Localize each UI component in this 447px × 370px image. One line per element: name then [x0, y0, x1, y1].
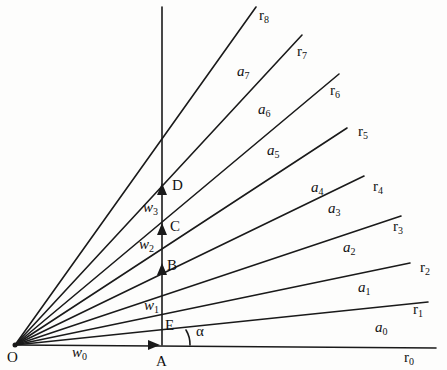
region-label-a0: a0 [375, 319, 388, 337]
region-label-a5: a5 [267, 142, 280, 160]
ray-label-r5: r5 [358, 123, 368, 141]
region-label-a2: a2 [343, 239, 356, 257]
point-label-E: E [165, 317, 174, 333]
ray-label-r7: r7 [297, 43, 307, 61]
diagram-canvas: r0r1r2r3r4r5r6r7r8a0a1a2a3a4a5a6a7ABCDEO… [0, 0, 447, 370]
arrow-B-icon [157, 263, 167, 275]
ray-label-r3: r3 [393, 218, 403, 236]
labels-group: r0r1r2r3r4r5r6r7r8a0a1a2a3a4a5a6a7ABCDEO… [7, 7, 430, 369]
angle-label-alpha: α [196, 323, 204, 339]
origin-point [13, 343, 18, 348]
angle-arc-alpha [186, 330, 190, 345]
ray-label-r6: r6 [330, 82, 340, 100]
ray-r6 [15, 74, 339, 345]
ray-label-r8: r8 [259, 7, 269, 25]
region-label-a1: a1 [358, 279, 371, 297]
ray-r8 [15, 7, 256, 345]
point-label-B: B [167, 257, 177, 273]
vector-label-w0: w0 [72, 344, 87, 362]
ray-label-r4: r4 [373, 178, 383, 196]
ray-r4 [15, 176, 364, 345]
point-label-C: C [170, 218, 180, 234]
ray-r2 [15, 263, 410, 345]
vector-label-w2: w2 [139, 236, 154, 254]
polar-sector-diagram: r0r1r2r3r4r5r6r7r8a0a1a2a3a4a5a6a7ABCDEO… [0, 0, 447, 370]
region-label-a4: a4 [311, 179, 324, 197]
region-label-a3: a3 [328, 200, 341, 218]
point-label-O: O [7, 349, 18, 365]
arrow-A-icon [148, 340, 160, 350]
point-label-D: D [172, 177, 183, 193]
vector-label-w3: w3 [143, 199, 158, 217]
point-label-A: A [156, 353, 167, 369]
ray-r7 [15, 35, 302, 345]
region-label-a7: a7 [237, 63, 250, 81]
vector-label-w1: w1 [144, 297, 159, 315]
ray-label-r2: r2 [420, 259, 430, 277]
ray-r5 [15, 128, 347, 345]
ray-label-r0: r0 [404, 349, 414, 367]
region-label-a6: a6 [258, 101, 271, 119]
